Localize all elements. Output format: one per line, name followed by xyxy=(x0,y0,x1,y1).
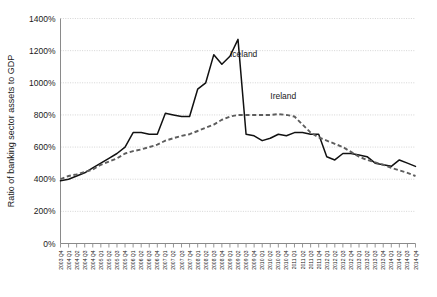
x-axis-tick-label: 2012 Q3 xyxy=(340,250,346,269)
x-axis-tick-label: 2014 Q3 xyxy=(404,250,410,269)
x-axis-tick-label: 2010 Q1 xyxy=(259,250,265,269)
x-axis-tick-label: 2009 Q1 xyxy=(227,250,233,269)
x-axis-tick-label: 2006 Q3 xyxy=(146,250,152,269)
series-line-ireland xyxy=(61,114,416,179)
x-axis-tick-label: 2009 Q3 xyxy=(243,250,249,269)
y-axis-title: Ratio of banking sector assets to GDP xyxy=(6,55,16,208)
y-axis-tick-label: 200% xyxy=(34,206,56,216)
x-axis-tick-label: 2003 Q4 xyxy=(58,250,64,269)
x-axis-tick-label: 2014 Q4 xyxy=(413,250,419,269)
x-axis-tick-label: 2005 Q4 xyxy=(122,250,128,269)
x-axis-tick-label: 2009 Q2 xyxy=(235,250,241,269)
x-axis-tick-label: 2011 Q4 xyxy=(316,250,322,269)
x-axis-tick-label: 2004 Q2 xyxy=(74,250,80,269)
x-axis-tick-label: 2010 Q3 xyxy=(275,250,281,269)
x-axis-tick-label: 2004 Q1 xyxy=(66,250,72,269)
x-axis-tick-label: 2005 Q3 xyxy=(114,250,120,269)
x-axis-ticks-group xyxy=(61,244,416,248)
series-label-iceland: Iceland xyxy=(230,49,258,59)
y-axis-tick-label: 400% xyxy=(34,174,56,184)
x-axis-labels-group: 2003 Q42004 Q12004 Q22004 Q32004 Q42005 … xyxy=(58,250,419,269)
y-axis-tick-label: 1200% xyxy=(29,46,56,56)
series-labels-group: IcelandIreland xyxy=(230,49,297,101)
x-axis-tick-label: 2006 Q1 xyxy=(130,250,136,269)
x-axis-tick-label: 2006 Q2 xyxy=(138,250,144,269)
y-axis-tick-label: 600% xyxy=(34,142,56,152)
x-axis-tick-label: 2009 Q4 xyxy=(251,250,257,269)
x-axis-tick-label: 2007 Q4 xyxy=(187,250,193,269)
x-axis-tick-label: 2014 Q1 xyxy=(388,250,394,269)
y-axis-ticks-group: 0%200%400%600%800%1000%1200%1400% xyxy=(29,14,56,249)
x-axis-tick-label: 2007 Q1 xyxy=(162,250,168,269)
y-axis-tick-label: 800% xyxy=(34,110,56,120)
x-axis-tick-label: 2004 Q4 xyxy=(90,250,96,269)
x-axis-tick-label: 2008 Q1 xyxy=(195,250,201,269)
x-axis-tick-label: 2010 Q2 xyxy=(267,250,273,269)
y-axis-tick-label: 1000% xyxy=(29,78,56,88)
series-label-ireland: Ireland xyxy=(270,91,296,101)
x-axis-tick-label: 2010 Q4 xyxy=(283,250,289,269)
x-axis-tick-label: 2012 Q1 xyxy=(324,250,330,269)
x-axis-tick-label: 2005 Q1 xyxy=(98,250,104,269)
x-axis-tick-label: 2004 Q3 xyxy=(82,250,88,269)
y-axis-tick-label: 1400% xyxy=(29,14,56,24)
x-axis-tick-label: 2008 Q2 xyxy=(203,250,209,269)
x-axis-tick-label: 2013 Q4 xyxy=(380,250,386,269)
chart-container: 0%200%400%600%800%1000%1200%1400% 2003 Q… xyxy=(0,0,437,297)
line-chart: 0%200%400%600%800%1000%1200%1400% 2003 Q… xyxy=(0,0,437,297)
x-axis-tick-label: 2005 Q2 xyxy=(106,250,112,269)
x-axis-tick-label: 2014 Q2 xyxy=(396,250,402,269)
x-axis-tick-label: 2008 Q3 xyxy=(211,250,217,269)
x-axis-tick-label: 2013 Q3 xyxy=(372,250,378,269)
x-axis-tick-label: 2007 Q3 xyxy=(179,250,185,269)
x-axis-tick-label: 2006 Q4 xyxy=(154,250,160,269)
x-axis-tick-label: 2011 Q2 xyxy=(300,250,306,269)
x-axis-tick-label: 2011 Q3 xyxy=(308,250,314,269)
x-axis-tick-label: 2007 Q2 xyxy=(170,250,176,269)
x-axis-tick-label: 2013 Q2 xyxy=(364,250,370,269)
x-axis-tick-label: 2013 Q1 xyxy=(356,250,362,269)
x-axis-tick-label: 2011 Q1 xyxy=(291,250,297,269)
series-group xyxy=(61,39,416,180)
x-axis-tick-label: 2008 Q4 xyxy=(219,250,225,269)
x-axis-tick-label: 2012 Q2 xyxy=(332,250,338,269)
y-axis-tick-label: 0% xyxy=(43,239,56,249)
x-axis-tick-label: 2012 Q4 xyxy=(348,250,354,269)
